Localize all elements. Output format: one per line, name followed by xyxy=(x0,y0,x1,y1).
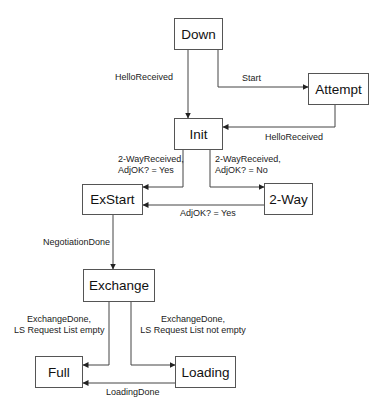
state-2way: 2-Way xyxy=(264,183,313,215)
state-down: Down xyxy=(174,18,223,50)
edge-label-exchange-loading: ExchangeDone, LS Request List not empty xyxy=(138,314,248,336)
state-exchange-label: Exchange xyxy=(89,278,149,293)
edge-label-init-exstart: 2-WayReceived, AdjOK? = Yes xyxy=(118,154,184,176)
state-loading-label: Loading xyxy=(181,365,229,380)
edge-label-loading-full: LoadingDone xyxy=(106,387,160,398)
state-loading: Loading xyxy=(175,356,236,388)
edges-layer xyxy=(0,0,384,413)
state-2way-label: 2-Way xyxy=(269,192,308,207)
edge-label-init-twoway: 2-WayReceived, AdjOK? = No xyxy=(215,154,281,176)
state-attempt-label: Attempt xyxy=(315,82,362,97)
edge-down-attempt xyxy=(218,50,308,87)
state-down-label: Down xyxy=(181,27,216,42)
state-exchange: Exchange xyxy=(83,269,155,302)
edge-label-twoway-exstart: AdjOK? = Yes xyxy=(180,208,236,219)
state-exstart-label: ExStart xyxy=(90,192,134,207)
state-exstart: ExStart xyxy=(82,184,143,215)
state-init-label: Init xyxy=(189,127,207,142)
state-init: Init xyxy=(174,118,223,150)
state-attempt: Attempt xyxy=(308,73,369,105)
edge-attempt-init xyxy=(223,105,335,127)
edge-label-attempt-init: HelloReceived xyxy=(265,132,323,143)
edge-label-down-attempt: Start xyxy=(242,73,261,84)
state-full: Full xyxy=(35,356,83,388)
state-full-label: Full xyxy=(48,365,70,380)
edge-label-exchange-full: ExchangeDone, LS Request List empty xyxy=(14,314,104,336)
edge-label-down-init: HelloReceived xyxy=(115,72,173,83)
edge-label-exstart-exchange: NegotiationDone xyxy=(43,237,110,248)
